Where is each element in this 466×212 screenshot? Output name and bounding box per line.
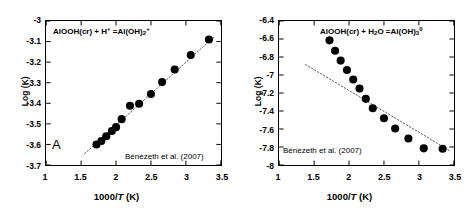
plot-canvas-b [279, 21, 454, 165]
y-axis-tick-label: -3.6 [26, 141, 41, 150]
y-axis-tick-label: -8 [266, 162, 274, 171]
citation-b: Bénézeth et al. (2007) [283, 147, 362, 155]
panel-b: -6.4-6.6-6.8-7-7.2-7.4-7.6-7.8-8 11.522.… [233, 0, 466, 212]
x-axis-tick-label: 3.5 [216, 173, 229, 182]
data-point-marker [420, 144, 428, 152]
y-axis-tick-label: -6.8 [259, 52, 274, 61]
reaction-equation-a: AlOOH(cr) + H+ =Al(OH)2+ [53, 26, 150, 36]
x-axis-title-a: 1000/T (K) [0, 192, 233, 202]
equation-mineral-a: AlOOH(cr) [53, 27, 92, 36]
data-point-marker [158, 78, 166, 86]
x-axis-tick-label: 1 [42, 173, 47, 182]
x-axis-tick-label: 3 [417, 173, 422, 182]
data-point-marker [118, 115, 126, 123]
data-point-marker [337, 57, 345, 65]
y-axis-tick-label: -6.6 [259, 34, 274, 43]
plot-canvas-a [46, 21, 221, 165]
y-axis-tick-label: -3.5 [26, 120, 41, 129]
equation-product-charge-b: 0 [419, 26, 422, 32]
x-axis-title-b: 1000/T (K) [233, 192, 466, 202]
equation-mineral-b: AlOOH(cr) [320, 27, 359, 36]
x-axis-tick-label: 1.5 [307, 173, 320, 182]
data-point-marker [362, 95, 370, 103]
equation-product-a: Al(OH) [117, 27, 142, 36]
plot-frame-b [278, 20, 455, 166]
x-axis-tick-label: 2 [113, 173, 118, 182]
data-point-marker [439, 145, 447, 153]
y-axis-tick-label: -7.8 [259, 144, 274, 153]
citation-a: Bénézeth et al. (2007) [125, 153, 204, 161]
data-point-marker [391, 125, 399, 133]
x-axis-tick-label: 3.5 [449, 173, 462, 182]
figure-two-panel-vant-hoff-plots: -3-3.1-3.2-3.3-3.4-3.5-3.6-3.7 11.522.53… [0, 0, 466, 212]
y-axis-tick-label: -3 [33, 16, 41, 25]
data-point-marker [404, 134, 412, 142]
x-axis-tick-label: 3 [184, 173, 189, 182]
equation-product-b: Al(OH) [391, 27, 416, 36]
data-point-marker [147, 90, 155, 98]
y-axis-title-b: Log (K) [254, 71, 263, 111]
data-point-marker [171, 66, 179, 74]
x-axis-tick-label: 2.5 [145, 173, 158, 182]
data-point-marker [126, 102, 134, 110]
x-axis-tick-label: 1.5 [74, 173, 87, 182]
data-point-marker [355, 84, 363, 92]
trend-line [306, 65, 450, 151]
data-point-marker [135, 100, 143, 108]
equation-equals-b: = [384, 27, 391, 36]
equation-plus-a: + [92, 27, 101, 36]
x-axis-tick-label: 1 [275, 173, 280, 182]
reaction-equation-b: AlOOH(cr) + H2O =Al(OH)30 [320, 26, 423, 36]
data-point-marker [369, 104, 377, 112]
data-point-marker [205, 35, 213, 43]
data-point-marker [325, 36, 333, 44]
data-point-marker [343, 66, 351, 74]
equation-plus-b: + [359, 27, 368, 36]
y-axis-title-a: Log (K) [21, 71, 30, 111]
y-axis-tick-label: -3.1 [26, 37, 41, 46]
equation-product-charge-a: + [146, 26, 150, 32]
plot-frame-a [45, 20, 222, 166]
x-axis-tick-label: 2 [346, 173, 351, 182]
y-axis-tick-label: -3.2 [26, 57, 41, 66]
data-point-marker [331, 47, 339, 55]
data-point-marker [380, 114, 388, 122]
panel-a: -3-3.1-3.2-3.3-3.4-3.5-3.6-3.7 11.522.53… [0, 0, 233, 212]
data-point-marker [112, 123, 120, 131]
y-axis-tick-label: -3.7 [26, 162, 41, 171]
data-point-marker [349, 75, 357, 83]
y-axis-tick-label: -6.4 [259, 16, 274, 25]
y-axis-tick-label: -7.6 [259, 125, 274, 134]
y-axis-tick-label: -7 [266, 71, 274, 80]
panel-label-a: A [52, 138, 61, 151]
data-point-marker [187, 51, 195, 59]
x-axis-tick-label: 2.5 [378, 173, 391, 182]
